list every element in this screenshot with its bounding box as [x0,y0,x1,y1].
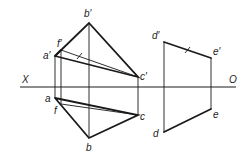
label-a: a [45,93,51,104]
label-b: b [86,142,92,153]
label-c: c [140,111,145,122]
projection-diagram: X O b′ f′ a′ c′ a f c b d′ e′ d e [0,0,245,158]
label-d: d [153,128,159,139]
line-f-c [61,104,138,115]
line-d-e [164,109,211,132]
triangle-front-view [55,23,138,77]
label-a-prime: a′ [43,50,52,61]
label-f: f [54,105,58,116]
label-d-prime: d′ [152,30,161,41]
label-c-prime: c′ [140,71,148,82]
label-b-prime: b′ [84,8,93,19]
axis-label-o: O [229,74,237,85]
triangle-top-view [55,98,138,138]
axis-label-x: X [21,74,29,85]
label-e: e [213,109,219,120]
label-e-prime: e′ [213,46,222,57]
label-f-prime: f′ [57,38,63,49]
edge-a-prime-f-prime [55,50,61,56]
